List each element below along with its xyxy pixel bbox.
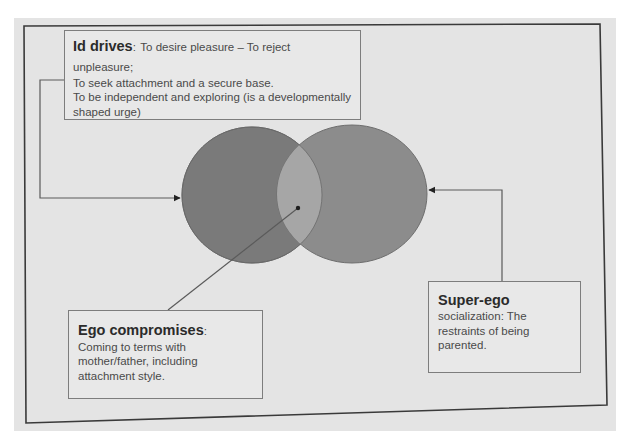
id-drives-title: Id drives xyxy=(73,38,133,54)
ego-compromises-line-3: attachment style. xyxy=(78,369,253,383)
id-drives-box: Id drives: To desire pleasure – To rejec… xyxy=(64,30,361,120)
super-ego-title: Super-ego xyxy=(438,291,571,309)
super-ego-box: Super-ego socialization: The restraints … xyxy=(428,281,581,373)
ego-compromises-separator: : xyxy=(204,325,207,337)
id-drives-line-3: To be independent and exploring (is a de… xyxy=(73,90,352,104)
super-ego-line-2: restraints of being xyxy=(438,324,571,338)
ego-connector-dot xyxy=(296,206,300,210)
id-drives-line-2: To seek attachment and a secure base. xyxy=(73,76,352,90)
super-ego-line-3: parented. xyxy=(438,338,571,352)
ego-compromises-line-1: Coming to terms with xyxy=(78,340,253,354)
ego-compromises-title: Ego compromises xyxy=(78,322,204,338)
superego-connector xyxy=(429,190,502,281)
ego-compromises-line-2: mother/father, including xyxy=(78,354,253,368)
id-drives-separator: : xyxy=(133,41,136,53)
id-drives-line-4: shaped urge) xyxy=(73,105,352,119)
super-ego-line-1: socialization: The xyxy=(438,309,571,323)
ego-compromises-box: Ego compromises: Coming to terms with mo… xyxy=(68,310,263,399)
